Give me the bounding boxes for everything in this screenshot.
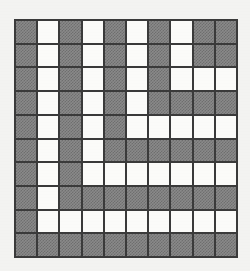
grid-cell[interactable]	[171, 92, 191, 114]
grid-cell[interactable]	[83, 211, 103, 233]
grid-cell[interactable]	[60, 140, 80, 162]
grid-cell[interactable]	[194, 211, 214, 233]
grid-cell[interactable]	[83, 21, 103, 43]
grid-cell[interactable]	[60, 21, 80, 43]
grid-cell[interactable]	[194, 92, 214, 114]
grid-cell[interactable]	[83, 187, 103, 209]
grid-cell[interactable]	[216, 140, 236, 162]
grid-cell[interactable]	[127, 45, 147, 67]
grid-cell[interactable]	[60, 211, 80, 233]
grid-cell[interactable]	[127, 21, 147, 43]
grid-cell[interactable]	[105, 92, 125, 114]
grid-cell[interactable]	[127, 187, 147, 209]
grid-cell[interactable]	[105, 21, 125, 43]
grid-cell[interactable]	[127, 92, 147, 114]
grid-cell[interactable]	[60, 163, 80, 185]
grid-cell[interactable]	[38, 234, 58, 256]
grid-cell[interactable]	[194, 187, 214, 209]
cell-grid[interactable]	[16, 21, 236, 256]
grid-cell[interactable]	[38, 163, 58, 185]
grid-cell[interactable]	[83, 68, 103, 90]
grid-cell[interactable]	[83, 116, 103, 138]
grid-cell[interactable]	[194, 21, 214, 43]
grid-cell[interactable]	[149, 187, 169, 209]
grid-cell[interactable]	[127, 68, 147, 90]
grid-cell[interactable]	[60, 92, 80, 114]
grid-cell[interactable]	[105, 45, 125, 67]
grid-cell[interactable]	[16, 45, 36, 67]
grid-cell[interactable]	[38, 68, 58, 90]
grid-cell[interactable]	[38, 187, 58, 209]
grid-cell[interactable]	[216, 92, 236, 114]
grid-cell[interactable]	[171, 234, 191, 256]
grid-cell[interactable]	[83, 45, 103, 67]
grid-cell[interactable]	[38, 140, 58, 162]
grid-cell[interactable]	[194, 163, 214, 185]
grid-cell[interactable]	[105, 187, 125, 209]
grid-cell[interactable]	[171, 45, 191, 67]
grid-cell[interactable]	[16, 163, 36, 185]
grid-cell[interactable]	[105, 211, 125, 233]
grid-cell[interactable]	[194, 45, 214, 67]
grid-cell[interactable]	[83, 140, 103, 162]
grid-cell[interactable]	[105, 163, 125, 185]
grid-cell[interactable]	[105, 116, 125, 138]
grid-cell[interactable]	[171, 140, 191, 162]
grid-cell[interactable]	[105, 234, 125, 256]
grid-cell[interactable]	[105, 68, 125, 90]
grid-cell[interactable]	[60, 45, 80, 67]
grid-cell[interactable]	[216, 187, 236, 209]
grid-cell[interactable]	[194, 140, 214, 162]
grid-cell[interactable]	[38, 92, 58, 114]
grid-cell[interactable]	[127, 116, 147, 138]
grid-cell[interactable]	[194, 234, 214, 256]
grid-cell[interactable]	[38, 45, 58, 67]
grid-cell[interactable]	[216, 211, 236, 233]
grid-cell[interactable]	[105, 140, 125, 162]
grid-cell[interactable]	[16, 211, 36, 233]
grid-cell[interactable]	[38, 211, 58, 233]
grid-cell[interactable]	[38, 21, 58, 43]
grid-cell[interactable]	[149, 92, 169, 114]
grid-cell[interactable]	[127, 234, 147, 256]
grid-cell[interactable]	[149, 211, 169, 233]
grid-cell[interactable]	[16, 187, 36, 209]
grid-cell[interactable]	[60, 187, 80, 209]
grid-cell[interactable]	[16, 92, 36, 114]
grid-cell[interactable]	[60, 234, 80, 256]
grid-cell[interactable]	[83, 234, 103, 256]
grid-cell[interactable]	[127, 140, 147, 162]
grid-cell[interactable]	[60, 68, 80, 90]
grid-cell[interactable]	[171, 187, 191, 209]
grid-cell[interactable]	[216, 116, 236, 138]
grid-cell[interactable]	[149, 68, 169, 90]
grid-cell[interactable]	[149, 163, 169, 185]
grid-cell[interactable]	[149, 45, 169, 67]
grid-cell[interactable]	[171, 68, 191, 90]
grid-cell[interactable]	[216, 45, 236, 67]
grid-cell[interactable]	[194, 68, 214, 90]
grid-cell[interactable]	[38, 116, 58, 138]
grid-cell[interactable]	[194, 116, 214, 138]
grid-cell[interactable]	[149, 140, 169, 162]
grid-cell[interactable]	[171, 21, 191, 43]
grid-cell[interactable]	[16, 21, 36, 43]
grid-cell[interactable]	[16, 234, 36, 256]
grid-cell[interactable]	[127, 211, 147, 233]
grid-cell[interactable]	[171, 163, 191, 185]
grid-cell[interactable]	[149, 21, 169, 43]
grid-cell[interactable]	[171, 116, 191, 138]
grid-cell[interactable]	[60, 116, 80, 138]
grid-cell[interactable]	[16, 68, 36, 90]
grid-cell[interactable]	[16, 116, 36, 138]
grid-cell[interactable]	[83, 92, 103, 114]
grid-cell[interactable]	[216, 163, 236, 185]
grid-cell[interactable]	[216, 234, 236, 256]
grid-cell[interactable]	[83, 163, 103, 185]
grid-cell[interactable]	[216, 68, 236, 90]
grid-cell[interactable]	[127, 163, 147, 185]
grid-cell[interactable]	[16, 140, 36, 162]
grid-cell[interactable]	[216, 21, 236, 43]
grid-cell[interactable]	[149, 234, 169, 256]
grid-cell[interactable]	[171, 211, 191, 233]
